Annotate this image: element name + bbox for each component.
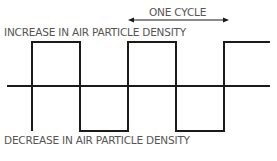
decrease-density-label: DECREASE IN AIR PARTICLE DENSITY: [4, 135, 190, 146]
increase-density-label: INCREASE IN AIR PARTICLE DENSITY: [4, 27, 186, 38]
arrowhead-left-icon: [128, 18, 134, 23]
square-wave-diagram: ONE CYCLE INCREASE IN AIR PARTICLE DENSI…: [0, 0, 277, 161]
one-cycle-label: ONE CYCLE: [149, 7, 206, 18]
arrowhead-right-icon: [223, 18, 229, 23]
one-cycle-arrow: [128, 18, 229, 23]
